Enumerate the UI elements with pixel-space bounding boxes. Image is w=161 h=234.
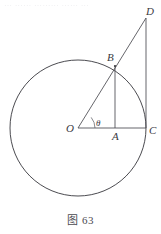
- figure-page: … …… ……… …… … O θ A B C D 图 63: [0, 0, 161, 234]
- label-c: C: [149, 124, 157, 136]
- label-a: A: [111, 130, 119, 142]
- figure-caption: 图 63: [0, 214, 161, 227]
- point-marker-b: [114, 65, 116, 67]
- label-b: B: [107, 51, 114, 63]
- segment-o-through-b-to-d: [78, 18, 146, 128]
- label-d: D: [145, 5, 154, 17]
- label-theta: θ: [96, 118, 101, 128]
- angle-arc-theta: [91, 117, 95, 128]
- label-o: O: [66, 122, 74, 134]
- geometry-diagram: O θ A B C D: [0, 4, 161, 209]
